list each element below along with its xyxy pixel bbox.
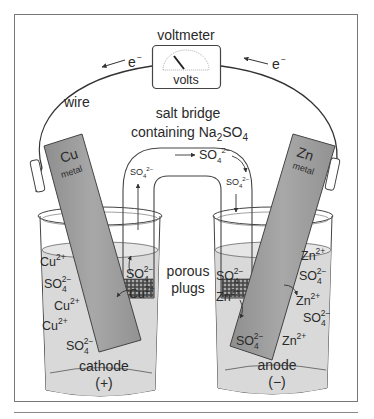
salt-bridge-label: salt bridge — [156, 105, 221, 121]
wire-label: wire — [63, 94, 90, 110]
svg-text:e: e — [272, 56, 280, 72]
svg-text:e: e — [128, 54, 136, 70]
svg-text:−: − — [137, 52, 142, 62]
cathode-sign: (+) — [95, 375, 113, 391]
svg-text:−: − — [281, 54, 286, 64]
porous-plugs-label-2: plugs — [171, 280, 204, 296]
anode-sign: (−) — [268, 374, 286, 390]
voltmeter: voltmeter volts — [153, 27, 221, 89]
volts-label: volts — [173, 73, 199, 87]
cathode-label: cathode — [79, 358, 129, 374]
porous-plugs-label: porous — [167, 263, 210, 279]
anode-label: anode — [258, 357, 297, 373]
voltmeter-label: voltmeter — [157, 27, 215, 43]
galvanic-cell-diagram: voltmeter volts e − e − wire salt bridge… — [0, 0, 374, 419]
